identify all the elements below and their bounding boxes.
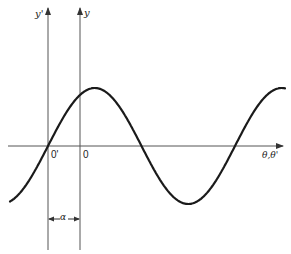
phase-shift-diagram [0,0,291,254]
origin-label: 0 [83,150,89,160]
y-prime-axis-label: y' [35,9,43,19]
theta-axis-label: θ,θ' [262,151,278,160]
alpha-label: α [60,213,66,222]
y-axis-label: y [84,8,90,18]
origin-primed-label: 0' [51,150,58,160]
